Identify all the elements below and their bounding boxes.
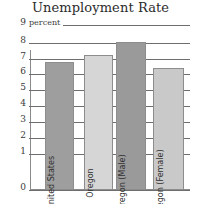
bars-layer: United States Oregon Oregon (Male) Orego… [0, 0, 201, 204]
bar-label-oregon-female: Oregon (Female) [161, 149, 169, 204]
unemployment-rate-bar-chart: Unemployment Rate 9 percent 8 7 6 5 4 [0, 0, 201, 204]
bar-oregon-male[interactable]: Oregon (Male) [116, 42, 146, 190]
bar-oregon-female[interactable]: Oregon (Female) [153, 68, 184, 190]
bar-united-states[interactable]: United States [45, 62, 74, 190]
bar-oregon[interactable]: Oregon [84, 55, 113, 190]
bar-label-united-states: United States [52, 156, 60, 204]
bar-label-oregon-male: Oregon (Male) [123, 154, 131, 204]
bar-label-oregon: Oregon [91, 168, 99, 197]
